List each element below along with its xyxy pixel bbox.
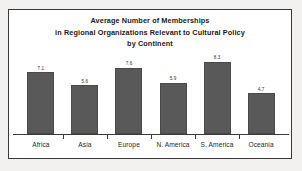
bar-value-s-america: 8.3: [214, 55, 221, 60]
bar-s-america: [204, 62, 231, 134]
bar-n-america: [160, 83, 187, 134]
x-axis-tick-4: [195, 135, 196, 139]
bar-slot-europe: 7.6: [107, 54, 151, 134]
x-axis-tick-5: [239, 135, 240, 139]
chart-title-line-2: in Regional Organizations Relevant to Cu…: [9, 27, 291, 39]
bar-slot-n-america: 5.9: [151, 54, 195, 134]
chart-page: Average Number of Memberships in Regiona…: [0, 0, 302, 171]
x-axis-label-oceania: Oceania: [239, 141, 283, 148]
x-axis-tick-3: [151, 135, 152, 139]
bar-slot-oceania: 4.7: [239, 54, 283, 134]
x-axis-label-africa: Africa: [19, 141, 63, 148]
bar-oceania: [248, 93, 275, 134]
bar-asia: [71, 85, 98, 134]
x-axis-category-labels: Africa Asia Europe N. America S. America…: [19, 141, 283, 148]
bar-africa: [27, 72, 54, 134]
plot-area: 7.1 5.6 7.6 5.9 8.3: [19, 54, 283, 134]
bar-europe: [115, 68, 142, 134]
bar-slot-asia: 5.6: [63, 54, 107, 134]
x-axis-label-asia: Asia: [63, 141, 107, 148]
bar-slot-s-america: 8.3: [195, 54, 239, 134]
x-axis-label-n-america: N. America: [151, 141, 195, 148]
bar-value-africa: 7.1: [38, 66, 45, 71]
bar-value-europe: 7.6: [126, 61, 133, 66]
x-axis-label-s-america: S. America: [195, 141, 239, 148]
chart-title-line-3: by Continent: [9, 38, 291, 50]
chart-title-line-1: Average Number of Memberships: [9, 15, 291, 27]
x-axis-label-europe: Europe: [107, 141, 151, 148]
bar-value-oceania: 4.7: [258, 87, 265, 92]
bars-row: 7.1 5.6 7.6 5.9 8.3: [19, 54, 283, 134]
bar-value-asia: 5.6: [82, 79, 89, 84]
bar-value-n-america: 5.9: [170, 76, 177, 81]
chart-title: Average Number of Memberships in Regiona…: [9, 15, 291, 50]
chart-figure-frame: Average Number of Memberships in Regiona…: [8, 9, 292, 159]
bar-slot-africa: 7.1: [19, 54, 63, 134]
x-axis-tick-1: [63, 135, 64, 139]
x-axis-tick-2: [107, 135, 108, 139]
